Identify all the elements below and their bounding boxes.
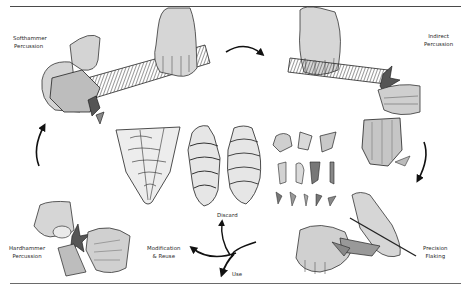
arrow-indirect-to-precision [418, 142, 426, 180]
softhammer-scene [42, 8, 210, 124]
label-softhammer-percussion: Softhammer Percussion [13, 34, 47, 50]
hardhammer-scene [34, 201, 130, 276]
center-cores [116, 126, 261, 206]
label-use: Use [232, 270, 242, 278]
arrow-softhammer-to-indirect [226, 46, 262, 54]
outcome-arrows [192, 222, 256, 274]
label-hardhammer-percussion: Hardhammer Percussion [9, 244, 45, 260]
label-discard: Discard [217, 211, 238, 219]
center-flakes [273, 132, 336, 206]
knapping-cycle-illustration [0, 0, 461, 293]
arrow-hardhammer-to-softhammer [36, 126, 44, 166]
label-precision-flaking: Precision Flaking [423, 244, 448, 260]
label-indirect-percussion: Indirect Percussion [424, 32, 453, 48]
label-modification-reuse: Modification & Reuse [147, 244, 180, 260]
precision-scene [296, 193, 416, 275]
